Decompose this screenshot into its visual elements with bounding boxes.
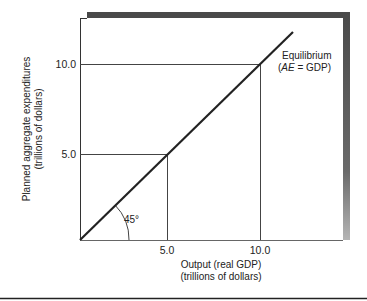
y-tick-5: 5.0 [61, 148, 76, 160]
chart-svg: 10.0 5.0 5.0 10.0 Output (real GDP) (tri… [0, 0, 367, 301]
equilibrium-label: Equilibrium [282, 50, 331, 61]
equilibrium-condition: (AE = GDP) [278, 62, 331, 73]
frame-shadow-right [343, 12, 350, 240]
x-axis-title: Output (real GDP) [181, 259, 262, 270]
x-axis-subtitle: (trillions of dollars) [180, 271, 261, 282]
y-axis-subtitle: (trillions of dollars) [33, 88, 44, 169]
y-tick-10: 10.0 [56, 58, 77, 70]
y-axis-title: Planned aggregate expenditures [21, 57, 32, 202]
angle-label: 45° [124, 214, 139, 225]
frame-shadow-top [87, 12, 350, 18]
x-tick-5: 5.0 [160, 244, 175, 256]
x-tick-10: 10.0 [250, 244, 271, 256]
